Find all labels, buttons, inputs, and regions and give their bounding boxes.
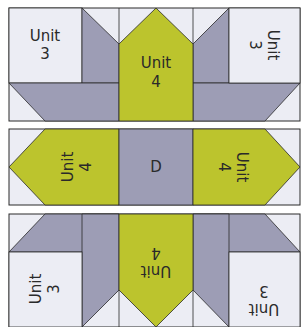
svg-text:Unit: Unit (27, 274, 45, 305)
svg-text:D: D (150, 158, 162, 176)
svg-text:3: 3 (45, 284, 63, 294)
svg-text:Unit: Unit (59, 152, 77, 183)
svg-text:Unit: Unit (141, 54, 172, 72)
svg-text:Unit: Unit (249, 300, 280, 318)
svg-text:4: 4 (77, 162, 95, 172)
quilt-block-diagram: Unit 3 Unit 4 Unit 3 Unit 4 D Unit 4 (0, 0, 305, 327)
svg-text:4: 4 (151, 244, 161, 262)
bottom-row: Unit 3 Unit 4 Unit 3 (9, 214, 300, 327)
svg-text:Unit: Unit (141, 262, 172, 280)
middle-row: Unit 4 D Unit 4 (9, 129, 300, 205)
svg-text:3: 3 (246, 40, 264, 50)
svg-text:Unit: Unit (264, 30, 282, 61)
svg-text:3: 3 (259, 282, 269, 300)
svg-text:Unit: Unit (30, 27, 61, 45)
svg-text:4: 4 (151, 73, 161, 91)
svg-text:Unit: Unit (233, 152, 251, 183)
top-row: Unit 3 Unit 4 Unit 3 (9, 8, 300, 121)
svg-text:4: 4 (215, 162, 233, 172)
svg-text:3: 3 (40, 45, 50, 63)
